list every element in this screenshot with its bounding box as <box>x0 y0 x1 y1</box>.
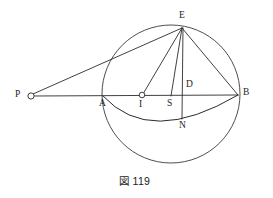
point-label-d: D <box>186 80 193 90</box>
segment-e-s <box>171 28 182 96</box>
point-label-n: N <box>179 121 186 131</box>
point-marker-i <box>139 92 145 98</box>
segment-p-e <box>33 28 182 94</box>
segment-e-i <box>143 28 182 94</box>
segment-e-n <box>182 28 183 119</box>
point-marker-p <box>28 93 34 99</box>
point-label-e: E <box>179 11 185 21</box>
figure-caption: 図 119 <box>119 173 150 188</box>
point-label-p: P <box>15 90 20 100</box>
figure-container: P A I S D B E N 図 119 <box>0 0 273 198</box>
point-label-b: B <box>243 88 249 98</box>
point-label-a: A <box>99 99 106 109</box>
geometry-canvas <box>0 0 273 198</box>
point-label-i: I <box>139 100 142 110</box>
point-label-s: S <box>167 99 172 109</box>
segment-p-b <box>33 95 238 96</box>
